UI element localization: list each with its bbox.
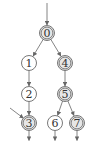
edge-5-7 xyxy=(68,101,74,116)
node-5: 5 xyxy=(58,87,73,102)
node-1: 1 xyxy=(22,56,37,71)
node-label: 1 xyxy=(26,57,33,70)
graph-diagram: 01425367 xyxy=(0,0,92,151)
edge-5-6 xyxy=(58,101,63,115)
node-label: 7 xyxy=(74,117,81,130)
edges xyxy=(10,3,77,141)
node-3: 3 xyxy=(22,116,37,131)
node-label: 5 xyxy=(62,88,69,101)
edge-0-4 xyxy=(51,39,61,56)
node-0: 0 xyxy=(40,26,55,41)
node-label: 4 xyxy=(62,57,69,70)
node-label: 0 xyxy=(44,27,51,40)
node-4: 4 xyxy=(58,56,73,71)
node-label: 6 xyxy=(52,117,59,130)
node-2: 2 xyxy=(22,87,37,102)
nodes: 01425367 xyxy=(22,26,85,131)
node-label: 2 xyxy=(26,88,33,101)
node-6: 6 xyxy=(48,116,63,131)
edge-entry-3 xyxy=(10,108,23,118)
node-7: 7 xyxy=(70,116,85,131)
node-label: 3 xyxy=(26,117,33,130)
edge-0-1 xyxy=(33,39,43,56)
